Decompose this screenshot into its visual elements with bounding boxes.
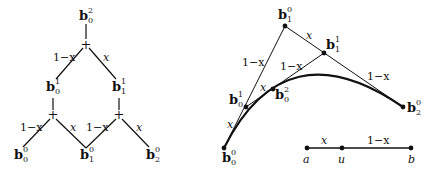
point-b01 bbox=[244, 105, 249, 110]
label-u: u bbox=[338, 153, 345, 166]
label-b10: b 0 1 bbox=[278, 5, 292, 24]
svg-text:0: 0 bbox=[231, 158, 236, 167]
svg-text:1: 1 bbox=[121, 87, 126, 96]
label-seg2: 1−x bbox=[367, 134, 390, 147]
tree-node-b10: b 0 1 bbox=[80, 145, 94, 164]
point-a bbox=[305, 146, 310, 151]
weight-b11-b20: 1−x bbox=[367, 70, 390, 83]
svg-text:b: b bbox=[275, 87, 284, 102]
svg-text:b: b bbox=[80, 147, 89, 162]
weight-b02-b11: 1−x bbox=[280, 60, 303, 73]
tree-node-b01: b 1 0 bbox=[46, 77, 60, 96]
weight-mid-right-right: x bbox=[136, 121, 143, 134]
svg-text:b: b bbox=[326, 37, 335, 52]
svg-text:1: 1 bbox=[89, 155, 94, 164]
label-b00: b 0 0 bbox=[222, 148, 236, 167]
svg-text:b: b bbox=[112, 79, 121, 94]
weight-b00-b01: x bbox=[227, 118, 234, 131]
plus-node-top: + bbox=[81, 37, 92, 52]
weight-mid-left-left: 1−x bbox=[20, 121, 43, 134]
point-u bbox=[340, 146, 345, 151]
svg-text:0: 0 bbox=[287, 5, 292, 14]
svg-text:b: b bbox=[407, 100, 416, 115]
label-b11: b 1 1 bbox=[326, 35, 340, 54]
control-polygon bbox=[224, 26, 403, 148]
de-casteljau-diagram: + + + b 2 0 b 1 0 b 1 1 b 0 0 b 0 1 b 0 … bbox=[0, 0, 434, 177]
label-b02: b 2 0 bbox=[275, 85, 289, 104]
svg-text:1: 1 bbox=[335, 45, 340, 54]
svg-text:0: 0 bbox=[416, 98, 421, 107]
construction-points bbox=[222, 24, 406, 151]
weight-mid-right-left: 1−x bbox=[86, 121, 109, 134]
svg-text:2: 2 bbox=[284, 85, 289, 94]
svg-text:0: 0 bbox=[55, 87, 60, 96]
svg-text:b: b bbox=[278, 7, 287, 22]
weight-b01-b10: 1−x bbox=[242, 56, 265, 69]
point-b bbox=[409, 146, 414, 151]
svg-text:1: 1 bbox=[238, 90, 243, 99]
svg-text:b: b bbox=[229, 92, 238, 107]
diagram-svg: + + + b 2 0 b 1 0 b 1 1 b 0 0 b 0 1 b 0 … bbox=[0, 0, 434, 177]
svg-text:1: 1 bbox=[55, 77, 60, 86]
svg-text:1: 1 bbox=[121, 77, 126, 86]
tree-node-b02: b 2 0 bbox=[79, 6, 93, 25]
svg-text:1: 1 bbox=[335, 35, 340, 44]
weight-b10-b11: x bbox=[306, 29, 313, 42]
svg-text:1: 1 bbox=[287, 15, 292, 24]
plus-node-left: + bbox=[48, 107, 59, 122]
svg-text:b: b bbox=[222, 150, 231, 165]
label-b20: b 0 2 bbox=[407, 98, 421, 117]
weight-b01-b02: x bbox=[260, 81, 267, 94]
svg-text:2: 2 bbox=[155, 155, 160, 164]
svg-text:2: 2 bbox=[416, 108, 421, 117]
svg-text:0: 0 bbox=[88, 16, 93, 25]
svg-text:2: 2 bbox=[88, 6, 93, 15]
label-a: a bbox=[303, 153, 310, 166]
label-seg1: x bbox=[321, 134, 328, 147]
parameter-line: a u b x 1−x bbox=[303, 134, 415, 166]
svg-text:0: 0 bbox=[155, 145, 160, 154]
point-b20 bbox=[401, 105, 406, 110]
svg-text:0: 0 bbox=[284, 95, 289, 104]
weight-top-left: 1−x bbox=[53, 51, 76, 64]
label-b01: b 1 0 bbox=[229, 90, 243, 109]
svg-text:b: b bbox=[146, 147, 155, 162]
svg-text:0: 0 bbox=[231, 148, 236, 157]
tree-node-b20: b 0 2 bbox=[146, 145, 160, 164]
weight-mid-left-right: x bbox=[70, 121, 77, 134]
svg-text:b: b bbox=[14, 147, 23, 162]
plus-node-right: + bbox=[114, 107, 125, 122]
tree-node-b00: b 0 0 bbox=[14, 145, 28, 164]
point-b10 bbox=[283, 24, 288, 29]
tree-node-b11: b 1 1 bbox=[112, 77, 126, 96]
label-b: b bbox=[408, 153, 415, 166]
svg-text:b: b bbox=[46, 79, 55, 94]
svg-text:0: 0 bbox=[23, 145, 28, 154]
svg-text:b: b bbox=[79, 8, 88, 23]
svg-text:0: 0 bbox=[23, 155, 28, 164]
svg-text:0: 0 bbox=[238, 100, 243, 109]
svg-text:0: 0 bbox=[89, 145, 94, 154]
weight-top-right: x bbox=[103, 51, 110, 64]
